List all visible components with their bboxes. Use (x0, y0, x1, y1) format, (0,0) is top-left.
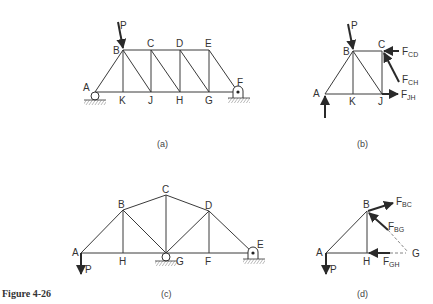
joint-label-h-d: H (363, 256, 370, 267)
joint-label-a: A (83, 82, 90, 93)
joint-label-g-c: G (176, 256, 184, 267)
roller-support-g (155, 253, 177, 266)
joint-label-a-b: A (313, 88, 320, 99)
truss-members-d (326, 211, 390, 253)
joint-label-c-b: C (378, 39, 385, 50)
label-p-c: P (85, 264, 92, 275)
panel-a: P A B C D E F K J H G (a) (83, 20, 250, 149)
joint-label-g-d: G (412, 248, 420, 259)
caption-b: (b) (357, 139, 368, 149)
force-label-fjh: FJH (401, 89, 416, 101)
panel-b: P A B C K J FCD FCH FJH (b) (313, 20, 418, 149)
joint-label-a-c: A (72, 247, 79, 258)
caption-d: (d) (357, 289, 368, 299)
force-fbc-arrow (368, 203, 393, 211)
label-p-b: P (351, 20, 358, 31)
joint-label-d-c: D (205, 200, 212, 211)
label-p: P (120, 20, 127, 31)
truss-members-b (325, 51, 382, 94)
pin-support-f (228, 86, 250, 103)
truss-members-c (81, 195, 253, 253)
joint-label-j-b: J (378, 96, 383, 107)
panel-c: A B C D E H G F P (c) (72, 184, 265, 299)
joint-label-d: D (176, 38, 183, 49)
force-label-fcd: FCD (402, 46, 418, 58)
panel-d: A B H G P FBC FBG FGH (d) (316, 196, 420, 299)
joint-label-j: J (148, 95, 153, 106)
joint-label-b-b: B (343, 46, 350, 57)
force-label-fch: FCH (402, 74, 418, 86)
truss-members-a (95, 50, 238, 92)
dashed-line-bg (388, 230, 408, 252)
joint-label-h-c: H (119, 256, 126, 267)
force-fbg-arrow (369, 213, 388, 230)
joint-label-c: C (147, 38, 154, 49)
joint-label-g: G (205, 95, 213, 106)
joint-label-e-c: E (257, 239, 264, 250)
joint-label-a-d: A (316, 247, 323, 258)
joint-label-b: B (113, 45, 120, 56)
caption-c: (c) (161, 289, 172, 299)
force-label-fgh: FGH (383, 256, 400, 268)
joint-label-f: F (237, 77, 243, 88)
figure-title: Figure 4-26 (2, 288, 51, 299)
force-fch-arrow (384, 53, 399, 82)
joint-label-h: H (176, 95, 183, 106)
joint-label-f-c: F (205, 256, 211, 267)
force-label-fbc: FBC (396, 196, 412, 208)
joint-label-e: E (205, 38, 212, 49)
roller-support-a (84, 92, 106, 105)
truss-figure: P A B C D E F K J H G (a) P A B C K (0, 0, 433, 304)
joint-label-b-d: B (363, 199, 370, 210)
joint-label-c-c: C (162, 184, 169, 195)
label-p-d: P (330, 264, 337, 275)
joint-label-k: K (119, 95, 126, 106)
joint-label-b-c: B (118, 199, 125, 210)
joint-label-k-b: K (349, 96, 356, 107)
caption-a: (a) (157, 139, 168, 149)
force-label-fbg: FBG (388, 221, 404, 233)
